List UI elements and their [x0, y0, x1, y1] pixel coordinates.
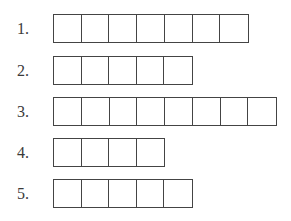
letter-box[interactable]: [82, 139, 110, 166]
letter-box[interactable]: [54, 98, 82, 125]
letter-box[interactable]: [82, 15, 110, 42]
letter-box[interactable]: [165, 98, 193, 125]
letter-box[interactable]: [137, 139, 164, 166]
box-group: [53, 138, 165, 167]
letter-box[interactable]: [54, 180, 82, 207]
letter-box[interactable]: [137, 180, 165, 207]
box-group: [53, 97, 277, 126]
row-5: 5.: [0, 179, 291, 208]
letter-box[interactable]: [137, 15, 165, 42]
letter-box[interactable]: [193, 15, 221, 42]
letter-box[interactable]: [193, 98, 221, 125]
letter-box[interactable]: [137, 98, 165, 125]
row-number: 2.: [17, 61, 29, 81]
letter-box[interactable]: [110, 98, 138, 125]
box-group: [53, 14, 249, 43]
letter-box[interactable]: [54, 57, 82, 84]
letter-box[interactable]: [164, 57, 192, 84]
row-number: 5.: [17, 184, 29, 204]
letter-box[interactable]: [221, 98, 249, 125]
letter-box[interactable]: [109, 15, 137, 42]
row-number: 3.: [17, 102, 29, 122]
letter-box[interactable]: [165, 15, 193, 42]
letter-box[interactable]: [54, 15, 82, 42]
row-3: 3.: [0, 97, 291, 126]
letter-box[interactable]: [248, 98, 276, 125]
row-2: 2.: [0, 56, 291, 85]
letter-box[interactable]: [109, 57, 137, 84]
letter-box[interactable]: [82, 57, 110, 84]
letter-box[interactable]: [109, 180, 137, 207]
letter-box[interactable]: [82, 98, 110, 125]
row-4: 4.: [0, 138, 291, 167]
letter-box[interactable]: [109, 139, 137, 166]
row-number: 4.: [17, 143, 29, 163]
box-group: [53, 56, 193, 85]
box-group: [53, 179, 193, 208]
row-number: 1.: [17, 19, 29, 39]
letter-box[interactable]: [82, 180, 110, 207]
row-1: 1.: [0, 14, 291, 43]
letter-box[interactable]: [220, 15, 248, 42]
letter-box[interactable]: [54, 139, 82, 166]
letter-box[interactable]: [164, 180, 192, 207]
letter-box[interactable]: [137, 57, 165, 84]
